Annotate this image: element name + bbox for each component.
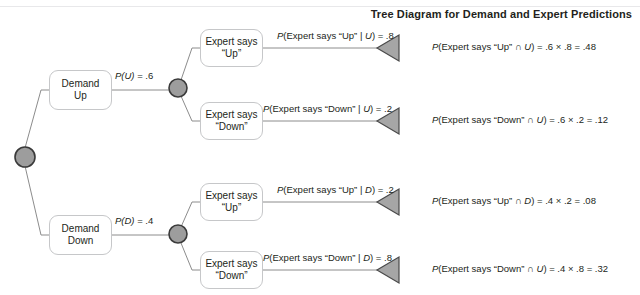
edge-label-demand-down-probability: P(D) = .4	[115, 215, 153, 226]
edge-up-node-to-expert-up	[181, 48, 200, 80]
cond-2-open: (Expert says “Up” |	[283, 184, 365, 195]
root-node-circle	[15, 147, 35, 167]
cond-1-close: ) = .2	[370, 103, 392, 114]
cond-1-open: (Expert says “Down” |	[269, 103, 363, 114]
joint-label-up-up: P(Expert says “Up” ∩ U) = .6 × .8 = .48	[432, 41, 596, 52]
cond-3-var: D	[363, 252, 370, 263]
conditional-label-down-up: P(Expert says “Up” | D) = .2	[277, 184, 394, 195]
node-expert-says-down-1[interactable]: Expert says “Down”	[200, 102, 263, 140]
node-expert-says-up-1[interactable]: Expert says “Up”	[200, 29, 263, 67]
cond-0-open: (Expert says “Up” |	[283, 30, 365, 41]
edge-down-node-to-expert-down	[181, 243, 200, 270]
edge-root-to-demand-down	[25, 166, 49, 235]
node-demand-up-line1: Demand	[62, 78, 100, 90]
joint-1-open: (Expert says “Down” ∩	[438, 114, 536, 125]
node-expert-up-2-line2: “Up”	[222, 202, 241, 214]
edge-label-demand-down-var: (D)	[121, 215, 134, 226]
joint-2-close: ) = .4 × .2 = .08	[531, 195, 596, 206]
node-demand-up-line2: Up	[74, 90, 87, 102]
joint-0-open: (Expert says “Up” ∩	[438, 41, 524, 52]
cond-1-var: U	[363, 103, 370, 114]
node-expert-up-1-line1: Expert says	[205, 36, 257, 48]
node-expert-down-2-line2: “Down”	[215, 270, 247, 282]
edge-label-demand-down-rest: = .4	[135, 215, 154, 226]
node-demand-down-line2: Down	[68, 235, 94, 247]
edge-root-to-demand-up	[25, 90, 49, 148]
node-expert-down-1-line2: “Down”	[215, 121, 247, 133]
joint-3-close: ) = .4 × .8 = .32	[543, 263, 608, 274]
joint-label-down-down: P(Expert says “Down” ∩ U) = .4 × .8 = .3…	[432, 263, 608, 274]
node-expert-down-1-line1: Expert says	[205, 109, 257, 121]
joint-0-close: ) = .6 × .8 = .48	[531, 41, 596, 52]
edge-label-demand-up-rest: = .6	[135, 70, 154, 81]
joint-label-up-down: P(Expert says “Down” ∩ U) = .6 × .2 = .1…	[432, 114, 608, 125]
cond-2-close: ) = .2	[372, 184, 394, 195]
edge-up-node-to-expert-down	[181, 96, 200, 121]
edge-label-demand-up-probability: P(U) = .6	[115, 70, 153, 81]
demand-up-branch-node-circle	[169, 79, 187, 97]
node-expert-says-down-2[interactable]: Expert says “Down”	[200, 251, 263, 289]
joint-3-open: (Expert says “Down” ∩	[438, 263, 536, 274]
joint-1-close: ) = .6 × .2 = .12	[543, 114, 608, 125]
tree-diagram-canvas: Tree Diagram for Demand and Expert Predi…	[0, 0, 640, 295]
conditional-label-up-down: P(Expert says “Down” | U) = .2	[263, 103, 392, 114]
cond-0-var: U	[365, 30, 372, 41]
cond-3-open: (Expert says “Down” |	[269, 252, 363, 263]
node-expert-down-2-line1: Expert says	[205, 258, 257, 270]
node-demand-down[interactable]: Demand Down	[49, 215, 112, 255]
conditional-label-up-up: P(Expert says “Up” | U) = .8	[277, 30, 394, 41]
joint-label-down-up: P(Expert says “Up” ∩ D) = .4 × .2 = .08	[432, 195, 596, 206]
node-demand-down-line1: Demand	[62, 223, 100, 235]
joint-2-open: (Expert says “Up” ∩	[438, 195, 524, 206]
cond-3-close: ) = .8	[370, 252, 392, 263]
node-expert-says-up-2[interactable]: Expert says “Up”	[200, 183, 263, 221]
node-demand-up[interactable]: Demand Up	[49, 70, 112, 110]
cond-2-var: D	[365, 184, 372, 195]
edge-label-demand-up-var: (U)	[121, 70, 134, 81]
demand-down-branch-node-circle	[169, 225, 187, 243]
node-expert-up-1-line2: “Up”	[222, 48, 241, 60]
node-expert-up-2-line1: Expert says	[205, 190, 257, 202]
cond-0-close: ) = .8	[372, 30, 394, 41]
edge-down-node-to-expert-up	[181, 202, 200, 227]
conditional-label-down-down: P(Expert says “Down” | D) = .8	[263, 252, 392, 263]
